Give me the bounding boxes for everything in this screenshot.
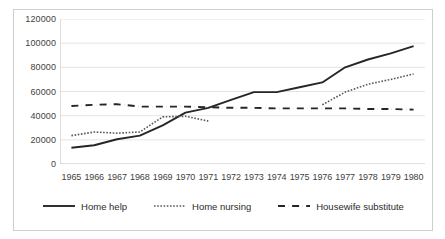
x-tick-label: 1965: [60, 172, 83, 186]
x-tick-label: 1973: [243, 172, 266, 186]
y-axis: 020000400006000080000100000120000: [14, 19, 56, 164]
y-tick-label: 40000: [30, 111, 56, 121]
series-line-3: [71, 104, 413, 109]
y-tick-label: 120000: [25, 14, 56, 24]
x-tick-label: 1978: [357, 172, 380, 186]
series-line-2: [71, 116, 208, 135]
legend-label: Housewife substitute: [316, 201, 404, 212]
plot-svg: [60, 19, 425, 164]
x-axis: 1965196619671968196919701971197219731974…: [60, 172, 425, 186]
x-tick-label: 1968: [128, 172, 151, 186]
solid-line-icon: [42, 201, 76, 211]
y-tick-label: 60000: [30, 87, 56, 97]
x-tick-label: 1974: [265, 172, 288, 186]
x-tick-label: 1977: [334, 172, 357, 186]
x-tick-label: 1967: [106, 172, 129, 186]
y-tick-label: 100000: [25, 38, 56, 48]
x-tick-label: 1971: [197, 172, 220, 186]
series-line-2: [322, 74, 413, 105]
legend-item[interactable]: Housewife substitute: [277, 201, 404, 212]
x-tick-label: 1966: [83, 172, 106, 186]
dotted-line-icon: [153, 201, 187, 211]
legend-label: Home help: [81, 201, 127, 212]
x-tick-label: 1969: [151, 172, 174, 186]
x-tick-label: 1970: [174, 172, 197, 186]
line-chart: 020000400006000080000100000120000 196519…: [0, 0, 445, 239]
chart-legend: Home helpHome nursingHousewife substitut…: [14, 196, 432, 216]
plot-area: [60, 19, 425, 164]
x-tick-label: 1979: [379, 172, 402, 186]
legend-item[interactable]: Home nursing: [153, 201, 251, 212]
y-tick-label: 20000: [30, 135, 56, 145]
x-tick-label: 1980: [402, 172, 425, 186]
y-tick-label: 80000: [30, 62, 56, 72]
legend-label: Home nursing: [192, 201, 251, 212]
dashed-line-icon: [277, 201, 311, 211]
legend-item[interactable]: Home help: [42, 201, 127, 212]
x-tick-label: 1972: [220, 172, 243, 186]
y-tick-label: 0: [51, 159, 56, 169]
x-tick-label: 1976: [311, 172, 334, 186]
x-tick-label: 1975: [288, 172, 311, 186]
